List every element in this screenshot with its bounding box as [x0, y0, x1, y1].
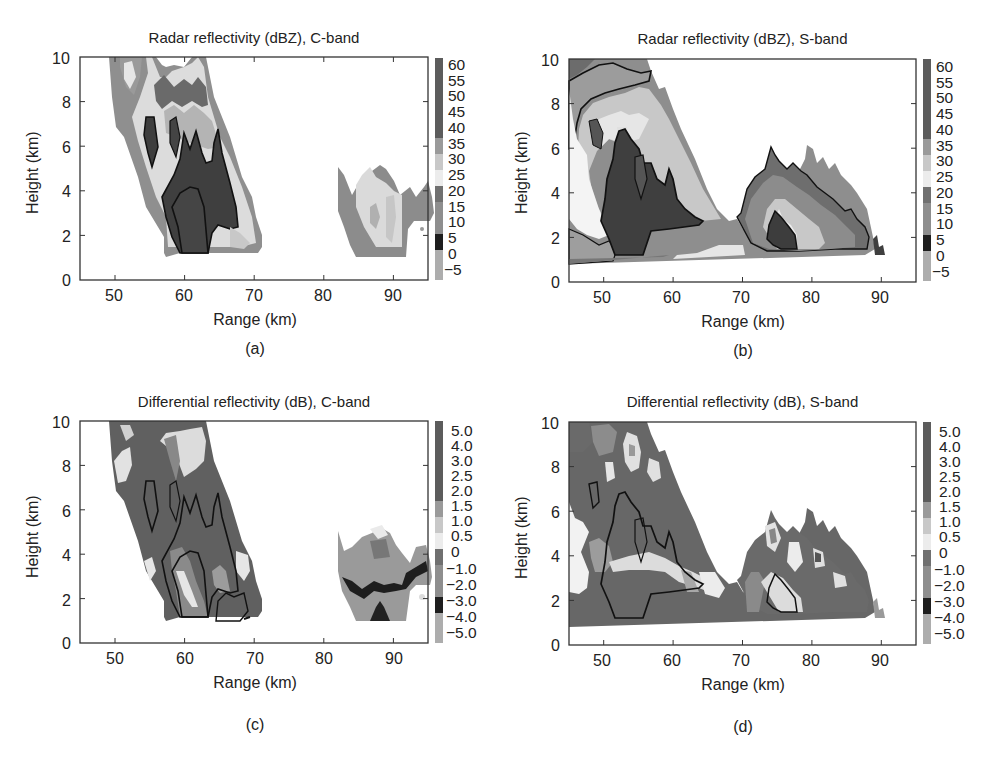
ytick: 0: [551, 637, 560, 655]
xtick: 90: [871, 289, 889, 307]
ytick: 10: [541, 415, 559, 433]
panel-a-title: Radar reflectivity (dBZ), C-band: [80, 29, 428, 46]
panel-c-colorbar: [435, 421, 443, 643]
ytick: 2: [62, 592, 71, 610]
panel-a-ylabel: Height (km): [24, 124, 42, 214]
xtick: 90: [871, 652, 889, 670]
xtick: 80: [315, 650, 333, 668]
panel-b-xlabel: Range (km): [668, 313, 818, 331]
xtick: 70: [246, 650, 264, 668]
xtick: 50: [106, 650, 124, 668]
panel-a-colorbar: [435, 58, 443, 280]
ytick: 4: [62, 547, 71, 565]
ytick: 6: [62, 139, 71, 157]
xtick: 60: [663, 289, 681, 307]
ytick: 0: [551, 274, 560, 292]
panel-d-ylabel: Height (km): [513, 489, 531, 579]
xtick: 60: [175, 287, 193, 305]
panel-d-xlabel: Range (km): [668, 676, 818, 694]
xtick: 80: [802, 652, 820, 670]
xtick: 80: [802, 289, 820, 307]
xtick: 60: [176, 650, 194, 668]
ytick: 2: [551, 593, 560, 611]
ytick: 8: [551, 96, 560, 114]
panel-a-plot: [80, 57, 428, 280]
panel-d-plot: [569, 422, 916, 645]
ytick: 6: [551, 141, 560, 159]
panel-b-colorbar: [923, 59, 931, 281]
ytick: 8: [551, 459, 560, 477]
xtick: 70: [732, 289, 750, 307]
xtick: 90: [385, 650, 403, 668]
ytick: 0: [62, 272, 71, 290]
ytick: 10: [52, 414, 70, 432]
panel-c-title: Differential reflectivity (dB), C-band: [80, 393, 428, 410]
panel-b-ylabel: Height (km): [513, 124, 531, 214]
ytick: 6: [551, 504, 560, 522]
panel-d-colorbar: [923, 422, 931, 644]
ytick: 4: [62, 183, 71, 201]
panel-c-ylabel: Height (km): [24, 488, 42, 578]
xtick: 50: [593, 652, 611, 670]
xtick: 70: [245, 287, 263, 305]
panel-a-label: (a): [235, 340, 275, 358]
xtick: 70: [732, 652, 750, 670]
xtick: 50: [105, 287, 123, 305]
xtick: 80: [314, 287, 332, 305]
panel-b-label: (b): [723, 342, 763, 360]
panel-d-title: Differential reflectivity (dB), S-band: [569, 393, 916, 410]
ytick: 4: [551, 185, 560, 203]
panel-c-plot: [80, 421, 428, 643]
panel-c-xlabel: Range (km): [180, 674, 330, 692]
panel-c-label: (c): [235, 716, 275, 734]
xtick: 90: [384, 287, 402, 305]
ytick: 2: [551, 230, 560, 248]
panel-b-plot: [569, 59, 916, 282]
panel-a-xlabel: Range (km): [180, 311, 330, 329]
ytick: 4: [551, 548, 560, 566]
xtick: 50: [593, 289, 611, 307]
ytick: 10: [52, 50, 70, 68]
ytick: 8: [62, 458, 71, 476]
ytick: 10: [541, 52, 559, 70]
ytick: 6: [62, 503, 71, 521]
panel-d-label: (d): [723, 718, 763, 736]
ytick: 2: [62, 228, 71, 246]
panel-b-title: Radar reflectivity (dBZ), S-band: [569, 30, 916, 47]
ytick: 0: [62, 635, 71, 653]
xtick: 60: [663, 652, 681, 670]
ytick: 8: [62, 94, 71, 112]
